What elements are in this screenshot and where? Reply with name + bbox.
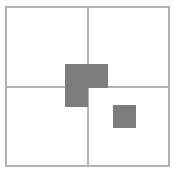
quadrant-diagram — [0, 0, 173, 171]
quadrant-figure — [0, 0, 173, 171]
small-square — [113, 105, 136, 128]
